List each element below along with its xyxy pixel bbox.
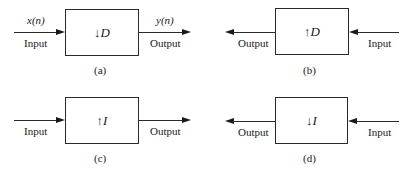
arrow-right-icon — [56, 29, 65, 35]
arrow-right-icon — [182, 29, 191, 35]
input-signal-label: x(n) — [27, 14, 45, 26]
output-arrow-line — [233, 32, 275, 33]
input-label: Input — [368, 37, 391, 49]
input-arrow-line — [14, 32, 56, 33]
caption: (d) — [303, 152, 316, 164]
factor-variable: D — [311, 24, 320, 40]
output-label: Output — [150, 125, 181, 137]
output-label: Output — [238, 126, 269, 138]
input-label: Input — [368, 126, 391, 138]
caption: (c) — [94, 152, 106, 164]
input-arrow-line — [357, 32, 399, 33]
caption: (a) — [94, 64, 106, 76]
upsampler-block: ↑D — [275, 8, 349, 55]
input-label: Input — [24, 125, 47, 137]
caption: (b) — [303, 64, 316, 76]
output-arrow-line — [139, 32, 183, 33]
output-arrow-line — [139, 120, 183, 121]
output-label: Output — [150, 37, 181, 49]
upsampler-block: ↑I — [65, 97, 139, 144]
factor-variable: I — [313, 113, 317, 129]
output-signal-label: y(n) — [156, 14, 174, 26]
factor-variable: I — [103, 113, 107, 129]
factor-variable: D — [101, 25, 110, 41]
input-label: Input — [24, 37, 47, 49]
input-arrow-line — [356, 121, 399, 122]
output-arrow-line — [233, 121, 275, 122]
input-arrow-line — [14, 120, 56, 121]
downsampler-block: ↓D — [65, 9, 139, 56]
arrow-right-icon — [56, 117, 65, 123]
downsampler-block: ↓I — [275, 97, 348, 144]
output-label: Output — [238, 37, 269, 49]
arrow-right-icon — [182, 117, 191, 123]
